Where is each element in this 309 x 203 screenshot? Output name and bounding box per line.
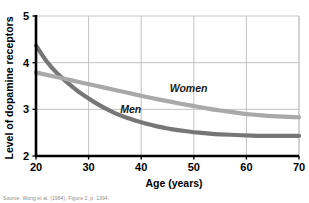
series-label-women: Women xyxy=(170,82,208,94)
figure-container: 2030405060702345 MenWomen Age (years) Le… xyxy=(0,0,309,203)
x-tick-label: 50 xyxy=(188,161,200,173)
x-tick-label: 30 xyxy=(82,161,94,173)
y-tick-label: 2 xyxy=(23,150,29,162)
x-axis-title: Age (years) xyxy=(145,177,202,189)
x-tick-label: 60 xyxy=(240,161,252,173)
series-label-men: Men xyxy=(120,103,141,115)
dopamine-receptor-line-chart: 2030405060702345 MenWomen Age (years) Le… xyxy=(0,0,309,190)
y-axis-title: Level of dopamine receptors xyxy=(3,16,15,159)
x-tick-label: 70 xyxy=(293,161,305,173)
y-tick-label: 3 xyxy=(23,103,29,115)
x-tick-label: 20 xyxy=(30,161,42,173)
x-tick-label: 40 xyxy=(135,161,147,173)
source-citation: Source: Wong et al. (1984). Figure 2, p.… xyxy=(3,195,109,202)
y-tick-label: 4 xyxy=(23,57,30,69)
y-tick-label: 5 xyxy=(23,10,29,22)
